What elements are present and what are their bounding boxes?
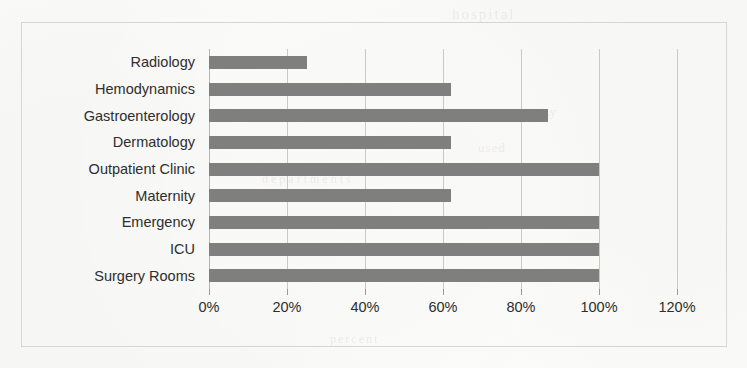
category-label: Radiology [22,49,204,76]
axis-tick-label: 60% [428,299,457,315]
bar[interactable] [209,216,599,229]
axis-tick-mark [443,289,444,295]
bar[interactable] [209,136,451,149]
bar[interactable] [209,269,599,282]
category-label: Dermatology [22,129,204,156]
axis-tick-mark [209,289,210,295]
axis-tick-mark [599,289,600,295]
axis-tick-label: 120% [658,299,695,315]
bar[interactable] [209,243,599,256]
axis-tick-label: 20% [272,299,301,315]
gridline [677,49,678,289]
bleedthrough-text-top: hospital [452,6,516,23]
axis-tick-mark [365,289,366,295]
bar-row [209,182,677,209]
value-axis: 0%20%40%60%80%100%120% [209,289,677,333]
bar-row [209,262,677,289]
bar-row [209,102,677,129]
bar-chart: RadiologyHemodynamicsGastroenterologyDer… [21,22,727,347]
bar[interactable] [209,56,307,69]
bar[interactable] [209,163,599,176]
bar[interactable] [209,109,548,122]
axis-tick-mark [677,289,678,295]
bar-row [209,209,677,236]
axis-tick-label: 40% [350,299,379,315]
bar-row [209,236,677,263]
chart-plot-wrapper: RadiologyHemodynamicsGastroenterologyDer… [22,23,726,346]
category-axis: RadiologyHemodynamicsGastroenterologyDer… [22,49,204,289]
axis-tick-label: 80% [506,299,535,315]
bar[interactable] [209,189,451,202]
category-label: Hemodynamics [22,76,204,103]
category-label: ICU [22,236,204,263]
bar-row [209,156,677,183]
axis-tick-mark [521,289,522,295]
category-label: Surgery Rooms [22,262,204,289]
category-label: Gastroenterology [22,102,204,129]
axis-tick-label: 100% [580,299,617,315]
category-label: Maternity [22,182,204,209]
bar-row [209,76,677,103]
axis-tick-mark [287,289,288,295]
bars-group [209,49,677,289]
category-label: Emergency [22,209,204,236]
bar-row [209,129,677,156]
axis-tick-label: 0% [199,299,220,315]
bar[interactable] [209,83,451,96]
category-label: Outpatient Clinic [22,156,204,183]
bar-row [209,49,677,76]
plot-area [209,49,677,289]
